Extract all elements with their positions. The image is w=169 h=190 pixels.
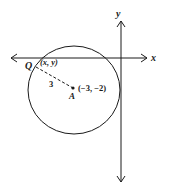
point-q-coords: (x, y): [40, 57, 58, 67]
center-point: [71, 86, 74, 89]
center-label: A: [68, 91, 75, 101]
radius-label: 3: [49, 79, 53, 89]
radius-line: [36, 67, 73, 88]
y-axis-label: y: [115, 8, 121, 19]
point-q-label: Q: [25, 60, 32, 71]
x-axis: x: [11, 52, 156, 63]
circle-diagram: x y Q (x, y) 3 (−3, −2) A: [0, 0, 169, 190]
x-axis-label: x: [150, 52, 156, 63]
center-coords-label: (−3, −2): [78, 83, 106, 93]
